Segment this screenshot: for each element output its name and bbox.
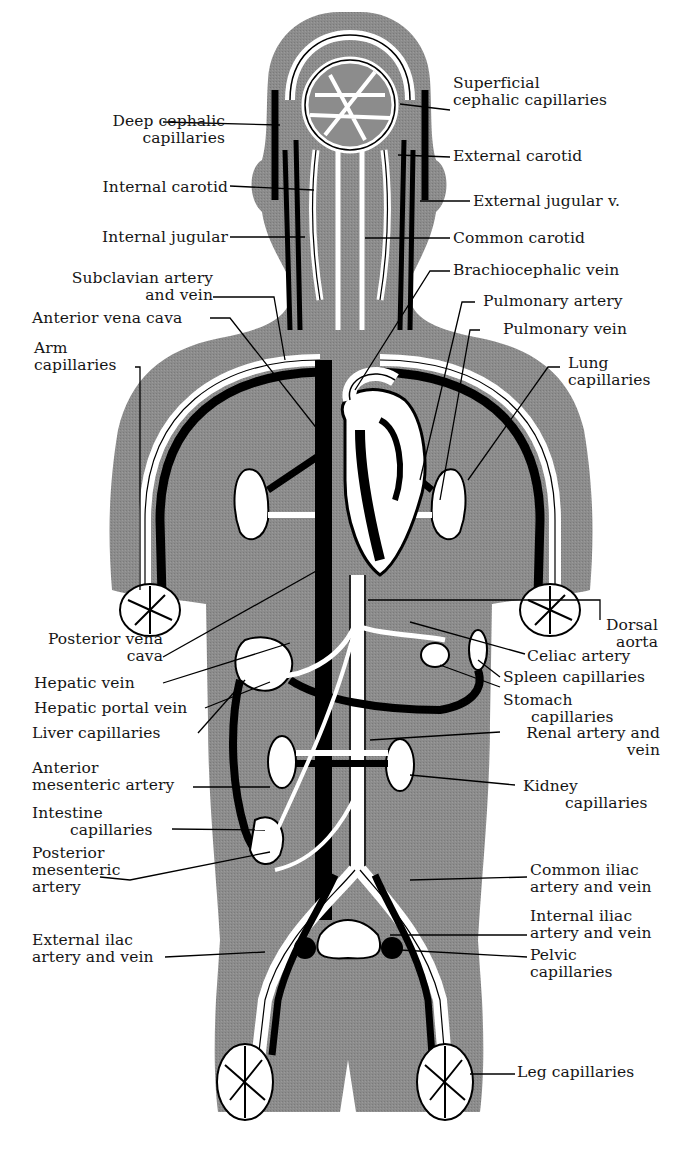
label-hepatic-vein: Hepatic vein — [34, 675, 135, 692]
label-liver-capillaries: Liver capillaries — [32, 725, 161, 742]
label-line: cephalic capillaries — [453, 92, 607, 109]
label-line: Common carotid — [453, 230, 585, 247]
label-line: Posterior vena — [20, 631, 163, 648]
label-line: Arm — [34, 340, 117, 357]
label-external-iliac-artery-and-vein: External ilac artery and vein — [32, 932, 154, 966]
label-line: Posterior — [32, 845, 120, 862]
label-line: and vein — [10, 287, 213, 304]
label-line: Internal iliac — [530, 908, 652, 925]
label-leg-capillaries: Leg capillaries — [517, 1064, 634, 1081]
label-line: Spleen capillaries — [503, 669, 645, 686]
label-celiac-artery: Celiac artery — [527, 648, 630, 665]
label-line: Pulmonary vein — [503, 321, 627, 338]
label-line: artery — [32, 879, 120, 896]
label-deep-cephalic-capillaries: Deep cephalic capillaries — [30, 113, 225, 147]
label-line: Lung — [568, 355, 651, 372]
label-line: mesenteric artery — [32, 777, 174, 794]
label-line: artery and vein — [32, 949, 154, 966]
label-lung-capillaries: Lung capillaries — [568, 355, 651, 389]
label-internal-carotid: Internal carotid — [20, 179, 228, 196]
label-line: Celiac artery — [527, 648, 630, 665]
label-line: Anterior — [32, 760, 174, 777]
circulatory-system-diagram: Deep cephalic capillaries Internal carot… — [0, 0, 686, 1155]
label-line: Superficial — [453, 75, 607, 92]
label-line: capillaries — [568, 372, 651, 389]
label-line: Intestine — [32, 805, 153, 822]
label-pulmonary-vein: Pulmonary vein — [503, 321, 627, 338]
label-line: Anterior vena cava — [32, 310, 182, 327]
label-line: Brachiocephalic vein — [453, 262, 619, 279]
label-arm-capillaries: Arm capillaries — [34, 340, 117, 374]
label-line: mesenteric — [32, 862, 120, 879]
label-anterior-mesenteric-artery: Anterior mesenteric artery — [32, 760, 174, 794]
label-line: Internal jugular — [20, 229, 228, 246]
label-line: Pulmonary artery — [483, 293, 623, 310]
label-internal-jugular: Internal jugular — [20, 229, 228, 246]
label-line: Internal carotid — [20, 179, 228, 196]
label-subclavian-artery-and-vein: Subclavian artery and vein — [10, 270, 213, 304]
label-brachiocephalic-vein: Brachiocephalic vein — [453, 262, 619, 279]
label-renal-artery-and-vein: Renal artery and vein — [500, 725, 660, 759]
label-pelvic-capillaries: Pelvic capillaries — [530, 947, 613, 981]
label-line: Subclavian artery — [10, 270, 213, 287]
label-line: Common iliac — [530, 862, 652, 879]
label-line: artery and vein — [530, 925, 652, 942]
label-anterior-vena-cava: Anterior vena cava — [32, 310, 182, 327]
body-illustration — [0, 0, 686, 1155]
label-line: cava — [20, 648, 163, 665]
label-line: Renal artery and — [500, 725, 660, 742]
label-line: Dorsal — [580, 617, 658, 634]
label-line: Hepatic portal vein — [34, 700, 187, 717]
label-external-carotid: External carotid — [453, 148, 582, 165]
label-line: artery and vein — [530, 879, 652, 896]
label-kidney-capillaries: Kidney capillaries — [523, 778, 648, 812]
label-pulmonary-artery: Pulmonary artery — [483, 293, 623, 310]
label-superficial-cephalic-capillaries: Superficial cephalic capillaries — [453, 75, 607, 109]
label-common-iliac-artery-and-vein: Common iliac artery and vein — [530, 862, 652, 896]
label-line: External carotid — [453, 148, 582, 165]
label-line: Leg capillaries — [517, 1064, 634, 1081]
label-external-jugular-v: External jugular v. — [473, 193, 620, 210]
label-line: capillaries — [530, 964, 613, 981]
label-posterior-vena-cava: Posterior vena cava — [20, 631, 163, 665]
label-spleen-capillaries: Spleen capillaries — [503, 669, 645, 686]
label-line: capillaries — [34, 357, 117, 374]
label-line: Pelvic — [530, 947, 613, 964]
label-line: Stomach — [503, 692, 614, 709]
label-line: vein — [500, 742, 660, 759]
label-line: capillaries — [30, 130, 225, 147]
label-line: Deep cephalic — [30, 113, 225, 130]
label-line: capillaries — [523, 795, 648, 812]
label-line: Liver capillaries — [32, 725, 161, 742]
label-line: Hepatic vein — [34, 675, 135, 692]
label-line: External jugular v. — [473, 193, 620, 210]
label-intestine-capillaries: Intestine capillaries — [32, 805, 153, 839]
label-line: External ilac — [32, 932, 154, 949]
label-posterior-mesenteric-artery: Posterior mesenteric artery — [32, 845, 120, 896]
label-line: capillaries — [32, 822, 153, 839]
label-stomach-capillaries: Stomach capillaries — [503, 692, 614, 726]
label-hepatic-portal-vein: Hepatic portal vein — [34, 700, 187, 717]
label-internal-iliac-artery-and-vein: Internal iliac artery and vein — [530, 908, 652, 942]
label-line: Kidney — [523, 778, 648, 795]
label-common-carotid: Common carotid — [453, 230, 585, 247]
label-dorsal-aorta: Dorsal aorta — [580, 617, 658, 651]
